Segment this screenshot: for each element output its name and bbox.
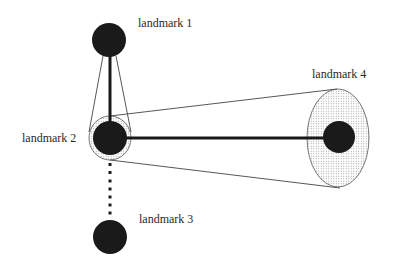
landmark-2-marker (93, 121, 127, 155)
connection-2-3-dotted (109, 163, 112, 215)
cone-line-2-4-bottom (110, 160, 340, 188)
landmark-3-marker (93, 220, 127, 254)
landmark-4-marker (323, 121, 355, 153)
landmark-1-marker (92, 23, 126, 57)
landmark-1-label: landmark 1 (138, 16, 192, 30)
landmark-diagram: landmark 1 landmark 2 landmark 3 landmar… (0, 0, 397, 271)
landmark-4-label: landmark 4 (312, 67, 366, 81)
landmark-2-label: landmark 2 (22, 131, 76, 145)
landmark-3-label: landmark 3 (139, 212, 193, 226)
cone-line-2-4-top (110, 89, 337, 116)
